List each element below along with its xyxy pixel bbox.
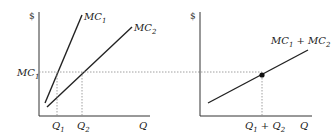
left-x-axis-label: Q (139, 120, 147, 131)
mc1-level-label: MC1 (16, 67, 39, 81)
left-y-axis-label: $ (29, 11, 35, 21)
intersection-point (259, 72, 264, 77)
mc1-curve (45, 15, 82, 103)
mc-sum-curve (208, 50, 308, 103)
mc1-label: MC1 (83, 11, 106, 25)
q-sum-tick-label: Q1 + Q2 (245, 120, 286, 134)
q2-tick-label: Q2 (77, 120, 90, 134)
mc-sum-label: MC1 + MC2 (270, 35, 331, 49)
mc2-label: MC2 (133, 22, 157, 36)
right-panel: $ MC1 + MC2 Q1 + Q2 Q (190, 11, 331, 134)
q1-tick-label: Q1 (52, 120, 65, 134)
right-x-axis-label: Q (300, 120, 308, 131)
marginal-cost-diagram: $ MC1 MC2 MC1 Q1 Q2 Q $ MC1 + MC2 Q1 + Q… (0, 0, 336, 138)
right-y-axis-label: $ (190, 11, 196, 21)
